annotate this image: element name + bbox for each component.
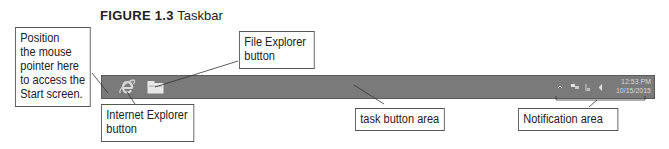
clock-time: 12:53 PM <box>611 77 651 86</box>
file-explorer-icon[interactable] <box>147 80 164 94</box>
volume-icon[interactable] <box>599 84 602 91</box>
figure-title: FIGURE 1.3 Taskbar <box>100 8 223 23</box>
callout-task-button-area: task button area <box>355 108 445 131</box>
internet-explorer-icon[interactable] <box>118 78 136 96</box>
callout-line: Start screen. <box>20 87 85 101</box>
callout-line: button <box>106 122 189 136</box>
clock-date: 10/15/2015 <box>611 86 651 95</box>
callout-line: Position <box>20 31 85 45</box>
callout-line: Notification area <box>523 112 613 126</box>
callout-notification-area: Notification area <box>518 108 618 131</box>
network-icon[interactable] <box>571 84 579 89</box>
callout-line: task button area <box>360 112 439 126</box>
show-hidden-icons-arrow[interactable] <box>558 86 562 88</box>
notification-tray <box>556 80 606 94</box>
callout-line: Internet Explorer <box>106 108 189 122</box>
callout-internet-explorer: Internet Explorer button <box>101 104 194 142</box>
figure-number: FIGURE 1.3 <box>100 8 174 23</box>
callout-file-explorer: File Explorer button <box>239 31 315 69</box>
callout-line: to access the <box>20 73 85 87</box>
callout-line: button <box>244 49 309 63</box>
callout-line: pointer here <box>20 59 85 73</box>
callout-line: File Explorer <box>244 35 309 49</box>
action-center-flag-icon[interactable] <box>586 84 590 91</box>
callout-line: the mouse <box>20 45 85 59</box>
figure-caption: Taskbar <box>177 8 223 23</box>
clock[interactable]: 12:53 PM 10/15/2015 <box>611 77 651 95</box>
callout-start-screen: Position the mouse pointer here to acces… <box>15 27 91 107</box>
